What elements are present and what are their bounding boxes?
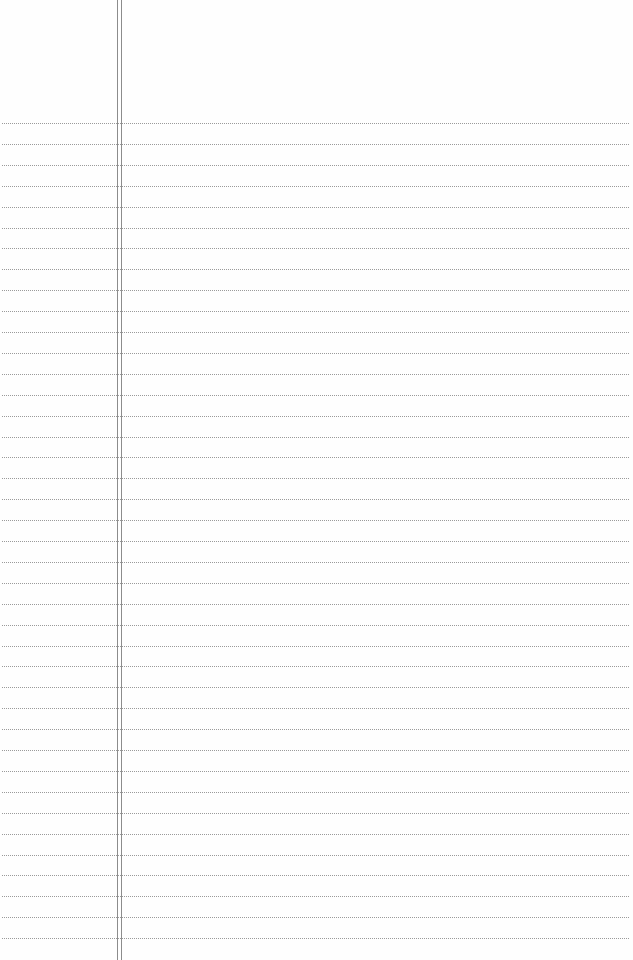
horizontal-rule	[2, 792, 629, 793]
horizontal-rule	[2, 917, 629, 918]
horizontal-rule	[2, 374, 629, 375]
horizontal-rule	[2, 583, 629, 584]
horizontal-rule	[2, 186, 629, 187]
horizontal-rule	[2, 729, 629, 730]
horizontal-rule	[2, 499, 629, 500]
horizontal-rule	[2, 269, 629, 270]
horizontal-rule	[2, 896, 629, 897]
horizontal-rule	[2, 750, 629, 751]
horizontal-rule	[2, 875, 629, 876]
horizontal-rule	[2, 771, 629, 772]
horizontal-rule	[2, 625, 629, 626]
horizontal-rule	[2, 541, 629, 542]
horizontal-rule	[2, 604, 629, 605]
horizontal-rule	[2, 938, 629, 939]
horizontal-rule	[2, 123, 629, 124]
horizontal-rule	[2, 834, 629, 835]
horizontal-rule	[2, 353, 629, 354]
margin-line	[121, 0, 122, 960]
horizontal-rule	[2, 165, 629, 166]
horizontal-rule	[2, 416, 629, 417]
lined-paper	[0, 0, 633, 960]
horizontal-rule	[2, 855, 629, 856]
horizontal-rule	[2, 311, 629, 312]
horizontal-rule	[2, 332, 629, 333]
horizontal-rule	[2, 437, 629, 438]
horizontal-rule	[2, 708, 629, 709]
margin-line	[117, 0, 118, 960]
horizontal-rule	[2, 207, 629, 208]
horizontal-rule	[2, 228, 629, 229]
horizontal-rule	[2, 646, 629, 647]
horizontal-rule	[2, 666, 629, 667]
horizontal-rule	[2, 478, 629, 479]
horizontal-rule	[2, 687, 629, 688]
horizontal-rule	[2, 457, 629, 458]
horizontal-rule	[2, 290, 629, 291]
horizontal-rule	[2, 520, 629, 521]
horizontal-rule	[2, 813, 629, 814]
horizontal-rule	[2, 144, 629, 145]
horizontal-rule	[2, 395, 629, 396]
horizontal-rule	[2, 562, 629, 563]
horizontal-rule	[2, 248, 629, 249]
